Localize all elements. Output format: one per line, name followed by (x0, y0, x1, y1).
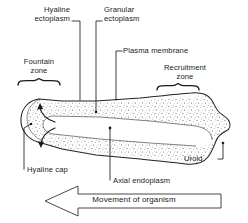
label-uroid: Uroid (184, 155, 218, 164)
brace-fountain-zone (18, 79, 60, 86)
leader-dot-uroid (222, 142, 225, 145)
label-hyaline-ectoplasm-line2: ectoplasm (8, 15, 70, 24)
label-plasma-membrane: Plasma membrane (123, 47, 203, 56)
label-granular-ectoplasm: Granular ectoplasm (104, 6, 166, 23)
label-granular-ectoplasm-line2: ectoplasm (104, 15, 166, 24)
brace-recruitment-zone (157, 84, 199, 91)
label-fountain-zone: Fountain zone (10, 58, 68, 75)
diagram-canvas (0, 0, 248, 223)
label-hyaline-ectoplasm: Hyaline ectoplasm (8, 6, 70, 23)
label-fountain-zone-line2: zone (10, 67, 68, 76)
amoeba-locomotion-diagram: Hyaline ectoplasm Granular ectoplasm Pla… (0, 0, 248, 223)
leader-uroid (218, 143, 223, 159)
label-hyaline-cap: Hyaline cap (27, 166, 87, 175)
fountain-arrowhead-down (38, 142, 44, 148)
label-recruitment-zone: Recruitment zone (152, 64, 218, 81)
label-axial-endoplasm: Axial endoplasm (113, 177, 195, 186)
leader-dot-axial-endoplasm (109, 127, 112, 130)
leader-hyaline-ectoplasm (72, 21, 80, 100)
leader-plasma-membrane (116, 51, 122, 100)
label-movement-of-organism: Movement of organism (54, 196, 214, 205)
leader-dot-hyaline-cap (30, 123, 33, 126)
leader-lines-top (72, 21, 122, 112)
leader-granular-ectoplasm (96, 21, 102, 112)
leader-dot-granular-ectoplasm (95, 111, 98, 114)
label-recruitment-zone-line2: zone (152, 73, 218, 82)
